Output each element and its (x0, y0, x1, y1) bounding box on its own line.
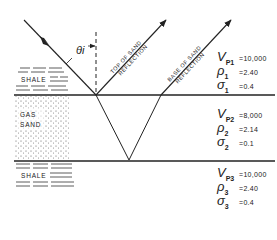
angle-marker (66, 58, 72, 64)
sigma3-symbol: σ3 (217, 193, 239, 210)
vp2-value: =8,000 (239, 112, 262, 119)
layer-label-shale-top: SHALE (21, 76, 46, 83)
vp1-value: =10,000 (239, 55, 267, 62)
layer-1-properties: VP1=10,000 ρ1=2.40 σ1=0.4 (217, 49, 267, 91)
layer-2-properties: VP2=8,000 ρ2=2.14 σ2=0.1 (217, 106, 262, 148)
rho2-value: =2.14 (239, 126, 258, 133)
layer-label-gas: GAS (20, 111, 36, 118)
incident-ray (24, 20, 96, 95)
sigma2-value: =0.1 (239, 140, 254, 147)
sigma1-value: =0.4 (239, 83, 254, 90)
transmitted-ray-down (96, 95, 129, 160)
sigma2-symbol: σ2 (217, 134, 239, 151)
angle-label-theta: θi (76, 44, 85, 56)
transmitted-ray-up (129, 95, 161, 160)
sigma3-value: =0.4 (239, 199, 254, 206)
sigma1-symbol: σ1 (217, 77, 239, 94)
vp3-value: =10,000 (239, 171, 267, 178)
rho1-value: =2.40 (239, 69, 258, 76)
layer-3-properties: VP3=10,000 ρ3=2.40 σ3=0.4 (217, 165, 267, 207)
layer-label-sand: SAND (20, 121, 41, 128)
layer-label-shale-bottom: SHALE (21, 172, 46, 179)
rho3-value: =2.40 (239, 185, 258, 192)
